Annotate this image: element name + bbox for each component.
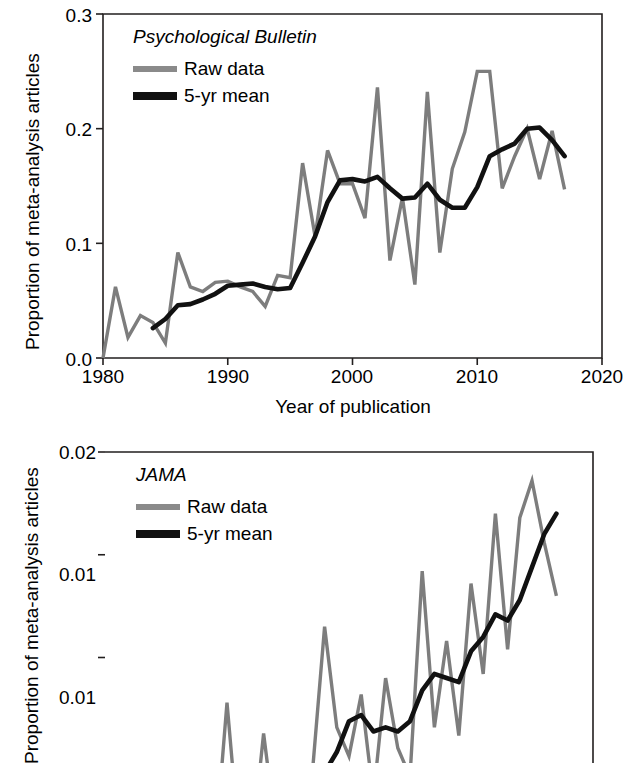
top-xtick-label-1980: 1980 [58, 367, 148, 386]
top-chart-legend: Psychological Bulletin Raw data 5-yr mea… [133, 26, 317, 109]
bottom-chart-plot-area [0, 432, 642, 763]
top-legend-label-raw-data: Raw data [184, 58, 264, 80]
figure-two-panel-line-charts: 0.3 0.2 0.1 0.0 1980 1990 2000 2010 2020… [0, 0, 642, 763]
top-xtick-label-2010: 2010 [432, 367, 522, 386]
bottom-legend-title-jama: JAMA [136, 464, 273, 486]
bottom-legend-item-5yr-mean: 5-yr mean [136, 520, 273, 547]
top-xtick-label-1990: 1990 [183, 367, 273, 386]
five-year-mean-line-swatch-icon [133, 92, 177, 100]
top-legend-title-psychological-bulletin: Psychological Bulletin [133, 26, 317, 48]
bottom-y-tick-marks [98, 452, 105, 658]
bottom-y-axis-title: Proportion of meta-analysis articles [21, 467, 43, 763]
top-xtick-label-2000: 2000 [307, 367, 397, 386]
bottom-legend-label-raw-data: Raw data [187, 496, 267, 518]
top-x-tick-marks [103, 358, 602, 365]
raw-data-line-swatch-icon [136, 504, 180, 510]
chart-panel-jama: 0.02 0.01 0.01 Proportion of meta-analys… [0, 432, 642, 763]
bottom-ytick-label-0: 0.02 [30, 443, 96, 462]
five-year-mean-line-swatch-icon [136, 530, 180, 538]
top-x-axis-title: Year of publication [163, 396, 543, 418]
chart-panel-psychological-bulletin: 0.3 0.2 0.1 0.0 1980 1990 2000 2010 2020… [0, 0, 642, 430]
top-series-raw-data-line [103, 71, 565, 358]
top-ytick-label-0: 0.3 [32, 6, 92, 25]
top-xtick-label-2020: 2020 [557, 367, 642, 386]
bottom-legend-label-5yr-mean: 5-yr mean [187, 523, 273, 545]
bottom-chart-legend: JAMA Raw data 5-yr mean [136, 464, 273, 547]
top-series-5yr-mean-line [153, 128, 565, 329]
top-legend-label-5yr-mean: 5-yr mean [184, 85, 270, 107]
bottom-legend-item-raw-data: Raw data [136, 493, 273, 520]
raw-data-line-swatch-icon [133, 66, 177, 72]
top-y-tick-marks [96, 14, 103, 358]
top-legend-item-raw-data: Raw data [133, 55, 317, 82]
top-legend-item-5yr-mean: 5-yr mean [133, 82, 317, 109]
top-y-axis-title: Proportion of meta-analysis articles [22, 53, 44, 350]
